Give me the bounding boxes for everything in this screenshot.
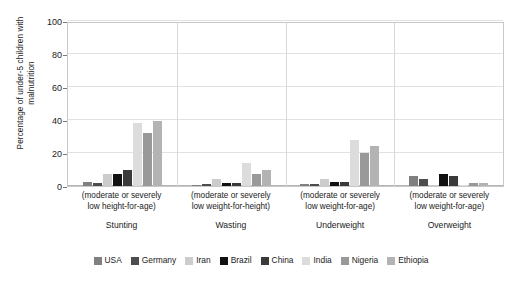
legend-item-india[interactable]: India	[302, 256, 331, 265]
bar-nigeria-stunting[interactable]	[143, 133, 152, 186]
bar-iran-overweight[interactable]	[429, 185, 438, 186]
bar-iran-underweight[interactable]	[320, 179, 329, 186]
legend-swatch-icon	[341, 257, 349, 265]
x-axis-sublabel-line: (moderate or severely	[397, 190, 502, 201]
bar-india-stunting[interactable]	[133, 123, 142, 186]
legend-swatch-icon	[261, 257, 269, 265]
x-axis-sublabel-line: low weight-for-age)	[397, 201, 502, 212]
x-axis-sublabel-line: (moderate or severely	[69, 190, 174, 201]
bar-ethiopia-overweight[interactable]	[479, 183, 488, 186]
plot-area	[67, 22, 504, 187]
x-axis-label-underweight: (moderate or severelylow weight-for-age)…	[286, 190, 395, 242]
bar-iran-wasting[interactable]	[212, 179, 221, 186]
bar-brazil-stunting[interactable]	[113, 174, 122, 186]
bar-usa-stunting[interactable]	[83, 182, 92, 186]
x-axis-sublabel-line: low weight-for-age)	[288, 201, 393, 212]
gridline	[68, 20, 503, 21]
bar-india-underweight[interactable]	[350, 140, 359, 186]
bar-brazil-overweight[interactable]	[439, 174, 448, 186]
bar-iran-stunting[interactable]	[103, 174, 112, 186]
bar-ethiopia-stunting[interactable]	[153, 121, 162, 186]
bar-group-underweight	[286, 23, 395, 186]
bar-nigeria-wasting[interactable]	[252, 174, 261, 186]
legend-label: China	[272, 256, 294, 265]
bar-germany-stunting[interactable]	[93, 183, 102, 186]
bar-germany-wasting[interactable]	[202, 184, 211, 186]
legend-item-ethiopia[interactable]: Ethiopia	[387, 256, 428, 265]
bar-china-underweight[interactable]	[340, 182, 349, 186]
bar-nigeria-overweight[interactable]	[469, 183, 478, 186]
legend-item-brazil[interactable]: Brazil	[220, 256, 252, 265]
legend-item-germany[interactable]: Germany	[131, 256, 176, 265]
x-axis-labels: (moderate or severelylow height-for-age)…	[67, 190, 504, 242]
y-tick-label: 20	[34, 150, 62, 159]
bar-groups	[68, 23, 503, 186]
x-axis-sublabel-line: low weight-for-height)	[178, 201, 283, 212]
bar-group-overweight	[394, 23, 503, 186]
legend-swatch-icon	[302, 257, 310, 265]
legend-swatch-icon	[220, 257, 228, 265]
legend-item-iran[interactable]: Iran	[185, 256, 210, 265]
chart-legend: USAGermanyIranBrazilChinaIndiaNigeriaEth…	[0, 256, 522, 265]
legend-swatch-icon	[131, 257, 139, 265]
y-tick-label: 60	[34, 84, 62, 93]
bar-ethiopia-underweight[interactable]	[370, 146, 379, 186]
bar-group-wasting	[177, 23, 286, 186]
y-tick-label: 80	[34, 51, 62, 60]
bar-germany-overweight[interactable]	[419, 179, 428, 186]
bar-india-wasting[interactable]	[242, 163, 251, 186]
legend-label: Nigeria	[352, 256, 379, 265]
y-tick-label: 100	[34, 18, 62, 27]
legend-label: India	[313, 256, 331, 265]
x-axis-sublabel-line: (moderate or severely	[288, 190, 393, 201]
x-axis-label-overweight: (moderate or severelylow weight-for-age)…	[395, 190, 504, 242]
x-axis-category-name: Underweight	[288, 220, 393, 231]
x-axis-sublabel-line: low height-for-age)	[69, 201, 174, 212]
legend-swatch-icon	[185, 257, 193, 265]
chart-container: Percentage of under-5 children with maln…	[0, 0, 522, 288]
bar-usa-underweight[interactable]	[300, 184, 309, 186]
bar-ethiopia-wasting[interactable]	[262, 170, 271, 187]
bar-china-wasting[interactable]	[232, 183, 241, 186]
y-tick-label: 0	[34, 183, 62, 192]
bar-nigeria-underweight[interactable]	[360, 153, 369, 186]
legend-swatch-icon	[94, 257, 102, 265]
legend-label: Germany	[142, 256, 176, 265]
bar-china-stunting[interactable]	[123, 170, 132, 186]
bar-usa-overweight[interactable]	[409, 176, 418, 186]
x-axis-category-name: Stunting	[69, 220, 174, 231]
x-axis-category-name: Overweight	[397, 220, 502, 231]
bar-china-overweight[interactable]	[449, 176, 458, 186]
legend-item-nigeria[interactable]: Nigeria	[341, 256, 379, 265]
legend-item-usa[interactable]: USA	[94, 256, 122, 265]
x-axis-category-name: Wasting	[178, 220, 283, 231]
bar-brazil-underweight[interactable]	[330, 182, 339, 186]
y-axis-title: Percentage of under-5 children with maln…	[15, 0, 37, 171]
y-tick-label: 40	[34, 117, 62, 126]
bar-germany-underweight[interactable]	[310, 184, 319, 186]
bar-group-stunting	[68, 23, 177, 186]
x-axis-label-wasting: (moderate or severelylow weight-for-heig…	[176, 190, 285, 242]
x-axis-label-stunting: (moderate or severelylow height-for-age)…	[67, 190, 176, 242]
legend-label: Brazil	[231, 256, 252, 265]
y-tick-mark	[63, 187, 67, 188]
legend-label: USA	[105, 256, 122, 265]
legend-swatch-icon	[387, 257, 395, 265]
legend-label: Iran	[196, 256, 210, 265]
bar-india-overweight[interactable]	[459, 185, 468, 186]
legend-label: Ethiopia	[398, 256, 428, 265]
x-axis-sublabel-line: (moderate or severely	[178, 190, 283, 201]
bar-brazil-wasting[interactable]	[222, 183, 231, 186]
legend-item-china[interactable]: China	[261, 256, 294, 265]
bar-usa-wasting[interactable]	[192, 185, 201, 186]
